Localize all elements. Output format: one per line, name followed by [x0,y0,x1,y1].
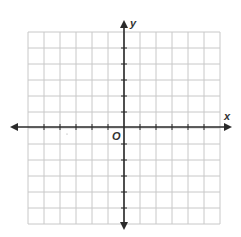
stray-dot [66,133,67,134]
x-axis-left-arrow-icon [10,123,18,131]
y-axis-down-arrow-icon [120,222,128,230]
axes [10,20,232,230]
y-axis-up-arrow-icon [120,20,128,28]
y-axis-label: y [130,18,136,29]
coordinate-grid-graphic [0,0,241,237]
origin-label: O [112,131,121,142]
x-axis-label: x [224,111,230,122]
x-axis-right-arrow-icon [224,123,232,131]
coordinate-plane: y x O [0,0,241,237]
